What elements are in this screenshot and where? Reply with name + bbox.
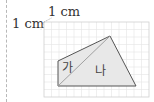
scale-indicator xyxy=(41,18,52,30)
region-label-na: 나 xyxy=(95,64,106,78)
grid-figure: 가 나 xyxy=(0,0,154,102)
region-label-ga: 가 xyxy=(62,61,73,75)
